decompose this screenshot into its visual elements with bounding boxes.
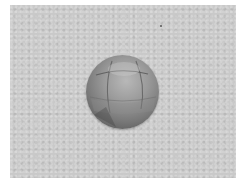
sphere [86, 55, 159, 129]
sphere-seams [86, 55, 159, 129]
dust-speck [160, 25, 162, 27]
